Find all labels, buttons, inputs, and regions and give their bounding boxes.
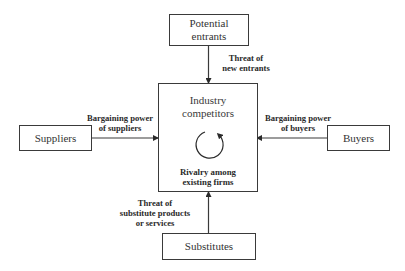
node-potential-entrants-label: Potential entrants (189, 17, 228, 43)
node-buyers-label: Buyers (343, 132, 374, 145)
edge-label-suppliers: Bargaining power of suppliers (80, 113, 160, 133)
node-suppliers-label: Suppliers (35, 132, 77, 145)
cycle-arrow-icon (193, 128, 227, 162)
node-industry-competitors-label: Industry competitors (158, 94, 258, 119)
edge-label-substitutes: Threat of substitute products or service… (110, 198, 200, 228)
node-potential-entrants: Potential entrants (169, 14, 249, 46)
edge-label-new-entrants: Threat of new entrants (214, 53, 278, 73)
edge-label-buyers: Bargaining power of buyers (258, 113, 338, 133)
node-industry-competitors-sublabel: Rivalry among existing firms (158, 167, 258, 187)
node-substitutes: Substitutes (162, 233, 256, 260)
five-forces-diagram: Potential entrants Threat of new entrant… (0, 0, 405, 271)
node-substitutes-label: Substitutes (185, 240, 233, 253)
